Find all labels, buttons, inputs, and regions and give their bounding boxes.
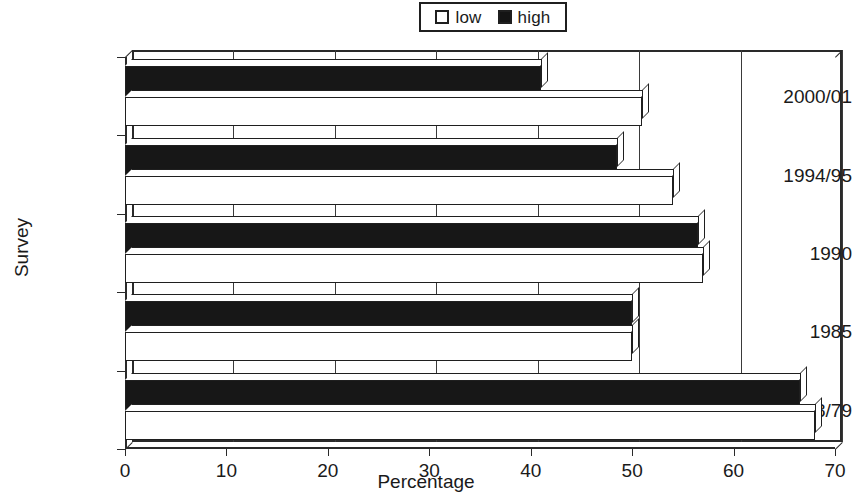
bar-top-face-low-4 (125, 404, 822, 411)
bar-top-face-low-1 (125, 169, 680, 176)
x-tick-60 (734, 449, 735, 456)
plot-depth-edge-bottom-right (835, 442, 843, 450)
y-tick-label-2: 1990 (740, 244, 852, 263)
x-tick-50 (632, 449, 633, 456)
y-tick-1 (117, 135, 125, 136)
y-tick-label-0: 2000/01 (740, 87, 852, 106)
bar-low-1990 (125, 254, 703, 283)
y-tick-0 (117, 57, 125, 58)
bar-top-face-high-4 (125, 373, 807, 380)
bar-low-1978/79 (125, 411, 815, 440)
bar-top-face-high-3 (125, 294, 639, 301)
legend-item-low: low (435, 9, 481, 26)
bar-top-face-high-0 (125, 59, 548, 66)
y-axis-title: Survey (12, 198, 31, 298)
x-tick-40 (531, 449, 532, 456)
y-tick-end (117, 449, 125, 450)
x-tick-30 (429, 449, 430, 456)
y-tick-2 (117, 214, 125, 215)
legend-swatch-low-icon (435, 10, 449, 24)
legend-label-high: high (518, 9, 551, 26)
x-tick-20 (328, 449, 329, 456)
x-tick-70 (835, 449, 836, 456)
bar-chart: low high 0102030405060702000/011994/9519… (0, 0, 852, 500)
bar-low-1994/95 (125, 176, 673, 205)
bar-top-face-low-3 (125, 325, 639, 332)
bar-low-1985 (125, 332, 632, 361)
x-tick-0 (125, 449, 126, 456)
x-tick-10 (226, 449, 227, 456)
bar-top-face-low-2 (125, 247, 710, 254)
y-tick-3 (117, 292, 125, 293)
y-tick-label-3: 1985 (740, 322, 852, 341)
x-axis-title: Percentage (0, 472, 852, 491)
bar-top-face-high-1 (125, 138, 624, 145)
legend-swatch-high-icon (498, 10, 512, 24)
y-tick-4 (117, 371, 125, 372)
bar-top-face-low-0 (125, 90, 649, 97)
bar-low-2000/01 (125, 97, 642, 126)
bar-top-face-high-2 (125, 216, 705, 223)
legend-item-high: high (498, 9, 551, 26)
y-tick-label-1: 1994/95 (740, 166, 852, 185)
legend-label-low: low (455, 9, 481, 26)
chart-legend: low high (419, 2, 567, 32)
